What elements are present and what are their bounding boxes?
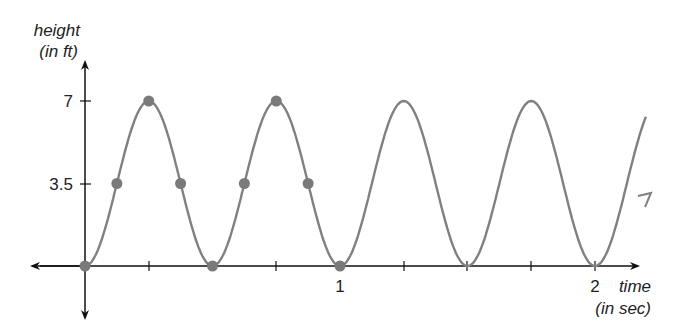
data-point xyxy=(303,178,314,189)
x-axis-unit: (in sec) xyxy=(595,299,651,318)
curve-arrow-icon xyxy=(638,193,651,207)
x-tick-label-2: 2 xyxy=(590,277,599,296)
y-axis-unit: (in ft) xyxy=(39,42,78,61)
data-point xyxy=(111,178,122,189)
sinusoid-chart: height (in ft) 7 3.5 1 2 time (in sec) xyxy=(0,0,678,332)
data-point xyxy=(335,261,346,272)
x-tick-label-1: 1 xyxy=(335,277,344,296)
data-point xyxy=(271,96,282,107)
height-curve xyxy=(85,101,646,266)
y-axis-title: height xyxy=(34,21,82,40)
data-point xyxy=(80,261,91,272)
data-point xyxy=(143,96,154,107)
x-axis-title: time xyxy=(619,277,651,296)
y-tick-label-7: 7 xyxy=(64,92,73,111)
data-point xyxy=(239,178,250,189)
y-tick-label-3.5: 3.5 xyxy=(49,175,73,194)
data-point xyxy=(175,178,186,189)
data-point xyxy=(207,261,218,272)
data-points xyxy=(80,96,346,272)
